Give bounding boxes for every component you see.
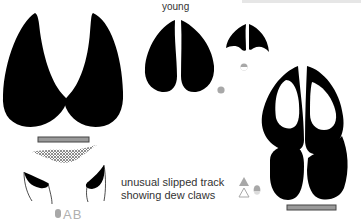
young-small-print-left	[226, 24, 246, 51]
ab-marker-label: AB	[63, 208, 82, 221]
caption-line-1: unusual slipped track	[121, 176, 224, 188]
marker-triangle-filled	[239, 177, 249, 186]
adult-print-right-toe	[65, 13, 123, 127]
overlapping-prints	[262, 66, 348, 200]
young-label: young	[162, 0, 189, 13]
dew-claw-right	[86, 165, 104, 189]
adult-scale-bar	[38, 137, 89, 142]
marker-young-small-white-half	[241, 67, 248, 71]
overlap-scale-bar	[287, 205, 336, 210]
slipped-track-toe-smear	[32, 145, 97, 163]
young-medium-print-left	[145, 20, 177, 92]
slipped-track	[24, 145, 106, 204]
marker-triangle-outline	[239, 188, 249, 197]
hind-print-left-toe	[270, 146, 304, 200]
young-medium-print-right	[181, 20, 214, 92]
slipped-track-caption: unusual slipped track showing dew claws	[121, 176, 224, 202]
marker-ab-pill	[55, 209, 61, 218]
marker-young-medium	[217, 86, 224, 93]
marker-overlap-circle-white-half	[254, 191, 261, 196]
adult-print-left-toe	[3, 13, 67, 127]
caption-line-2: showing dew claws	[121, 189, 215, 201]
young-small-print-right	[249, 24, 269, 52]
dew-claw-left	[24, 172, 49, 188]
